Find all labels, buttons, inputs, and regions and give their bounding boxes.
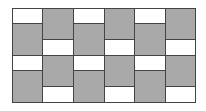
shaded-tile [73,23,105,56]
shaded-tile [12,23,43,56]
blank-tile [42,86,74,103]
shaded-tile [165,55,196,87]
shaded-tile [12,70,43,103]
blank-tile [73,55,105,71]
blank-tile [73,8,105,24]
shaded-tile [104,55,135,87]
blank-tile [165,39,196,56]
woven-tile-diagram [12,8,195,102]
shaded-tile [73,70,105,103]
blank-tile [12,8,43,24]
shaded-tile [104,8,135,40]
shaded-tile [165,8,196,40]
shaded-tile [134,70,166,103]
shaded-tile [134,23,166,56]
blank-tile [134,55,166,71]
blank-tile [42,39,74,56]
shaded-tile [42,8,74,40]
blank-tile [104,86,135,103]
shaded-tile [42,55,74,87]
blank-tile [104,39,135,56]
blank-tile [12,55,43,71]
blank-tile [134,8,166,24]
blank-tile [165,86,196,103]
